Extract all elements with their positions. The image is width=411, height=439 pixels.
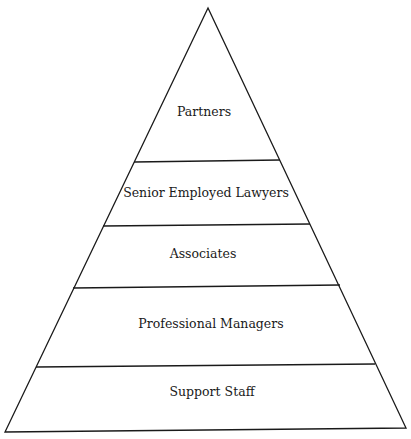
tier-label-partners: Partners — [177, 106, 231, 119]
pyramid-diagram — [0, 0, 411, 439]
tier-label-senior-employed-lawyers: Senior Employed Lawyers — [123, 187, 289, 200]
tier-label-support-staff: Support Staff — [169, 386, 254, 399]
tier-label-associates: Associates — [170, 248, 237, 261]
tier-label-professional-managers: Professional Managers — [138, 318, 283, 331]
pyramid-outline — [5, 8, 406, 432]
